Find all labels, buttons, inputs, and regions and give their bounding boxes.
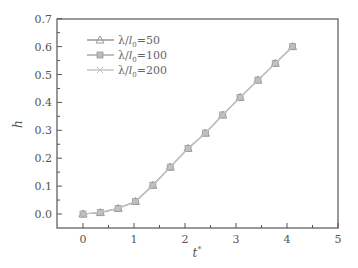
x-tick-label: 0 (80, 233, 87, 246)
legend-item: λ/l0=200 (87, 64, 167, 79)
y-tick-label: 0.6 (35, 41, 53, 54)
line-chart: 0123450.00.10.20.30.40.50.60.7 λ/l0=50λ/… (0, 0, 358, 268)
y-tick-label: 0.3 (35, 124, 53, 137)
series-0 (79, 43, 297, 217)
x-axis-label: t* (193, 245, 202, 260)
plot-frame (57, 19, 338, 228)
y-tick-label: 0.1 (35, 180, 53, 193)
data-series (79, 43, 297, 217)
legend-item: λ/l0=50 (87, 34, 160, 49)
y-tick-label: 0.0 (35, 208, 53, 221)
legend-label: λ/l0=200 (118, 64, 167, 79)
x-tick-label: 5 (335, 233, 342, 246)
y-tick-label: 0.7 (35, 13, 53, 26)
x-tick-label: 1 (131, 233, 138, 246)
legend: λ/l0=50λ/l0=100λ/l0=200 (87, 34, 167, 79)
legend-label: λ/l0=50 (118, 34, 160, 49)
x-tick-label: 3 (233, 233, 240, 246)
y-tick-label: 0.5 (35, 69, 53, 82)
legend-label: λ/l0=100 (118, 49, 167, 64)
y-tick-label: 0.4 (35, 96, 53, 109)
y-axis-label: h (11, 120, 25, 128)
y-tick-label: 0.2 (35, 152, 53, 165)
x-tick-label: 2 (182, 233, 189, 246)
x-tick-label: 4 (284, 233, 291, 246)
legend-item: λ/l0=100 (87, 49, 167, 64)
